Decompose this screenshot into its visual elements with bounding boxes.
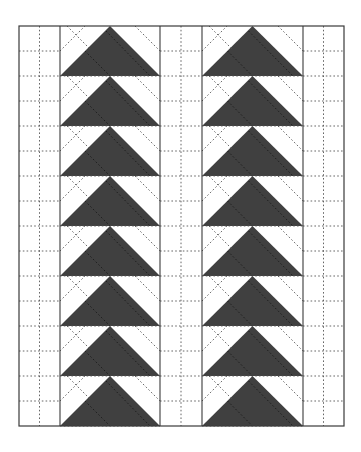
flying-geese-block	[202, 26, 303, 76]
flying-geese-block	[202, 326, 303, 376]
seam-line	[67, 376, 90, 399]
geese-blocks	[60, 26, 303, 426]
seam-line	[209, 176, 232, 199]
seam-line	[135, 376, 160, 401]
seam-line	[60, 226, 85, 251]
goose-triangle	[202, 26, 303, 76]
flying-geese-block	[202, 176, 303, 226]
flying-geese-block	[202, 76, 303, 126]
seam-line	[60, 276, 85, 301]
seam-line	[67, 176, 90, 199]
flying-geese-block	[60, 276, 160, 326]
left-sashing-strip	[19, 26, 60, 426]
seam-line	[209, 276, 232, 299]
seam-line	[202, 76, 227, 101]
seam-line	[202, 376, 227, 401]
seam-line	[209, 226, 232, 249]
goose-triangle	[202, 126, 303, 176]
seam-line	[278, 376, 303, 401]
seam-line	[209, 326, 232, 349]
seam-line	[67, 26, 90, 49]
goose-triangle	[202, 76, 303, 126]
left-geese-column	[60, 26, 160, 426]
goose-triangle	[60, 376, 160, 426]
seam-line	[135, 226, 160, 251]
seam-line	[278, 176, 303, 201]
seam-line	[278, 226, 303, 251]
seam-line	[67, 226, 90, 249]
flying-geese-quilt-diagram	[0, 0, 361, 452]
seam-line	[202, 226, 227, 251]
seam-line	[135, 26, 160, 51]
seam-line	[209, 376, 232, 399]
seam-line	[67, 326, 90, 349]
seam-line	[209, 76, 232, 99]
seam-line	[135, 76, 160, 101]
seam-line	[202, 326, 227, 351]
seam-line	[67, 126, 90, 149]
seam-line	[135, 126, 160, 151]
flying-geese-block	[60, 176, 160, 226]
seam-line	[278, 26, 303, 51]
flying-geese-block	[60, 376, 160, 426]
flying-geese-block	[202, 226, 303, 276]
seam-line	[67, 276, 90, 299]
goose-triangle	[202, 176, 303, 226]
seam-line	[60, 126, 85, 151]
goose-triangle	[202, 276, 303, 326]
seam-line	[60, 76, 85, 101]
seam-line	[202, 176, 227, 201]
seam-line	[209, 26, 232, 49]
seam-line	[278, 76, 303, 101]
seam-line	[60, 376, 85, 401]
goose-triangle	[60, 26, 160, 76]
seam-line	[202, 26, 227, 51]
goose-triangle	[60, 326, 160, 376]
right-geese-column	[202, 26, 303, 426]
flying-geese-block	[60, 26, 160, 76]
seam-line	[60, 176, 85, 201]
flying-geese-block	[202, 376, 303, 426]
goose-triangle	[202, 226, 303, 276]
goose-triangle	[60, 276, 160, 326]
middle-sashing-strip	[160, 26, 202, 426]
goose-triangle	[60, 226, 160, 276]
seam-line	[135, 326, 160, 351]
flying-geese-block	[60, 126, 160, 176]
goose-triangle	[60, 76, 160, 126]
flying-geese-block	[202, 276, 303, 326]
right-sashing-strip	[303, 26, 344, 426]
seam-line	[67, 76, 90, 99]
seam-line	[278, 276, 303, 301]
seam-line	[278, 126, 303, 151]
goose-triangle	[60, 126, 160, 176]
seam-line	[202, 126, 227, 151]
flying-geese-block	[60, 326, 160, 376]
seam-line	[60, 26, 85, 51]
flying-geese-block	[60, 76, 160, 126]
seam-line	[209, 126, 232, 149]
goose-triangle	[202, 326, 303, 376]
seam-line	[60, 326, 85, 351]
flying-geese-block	[60, 226, 160, 276]
seam-line	[135, 276, 160, 301]
flying-geese-block	[202, 126, 303, 176]
seam-line	[202, 276, 227, 301]
goose-triangle	[202, 376, 303, 426]
seam-line	[278, 326, 303, 351]
seam-line	[135, 176, 160, 201]
goose-triangle	[60, 176, 160, 226]
